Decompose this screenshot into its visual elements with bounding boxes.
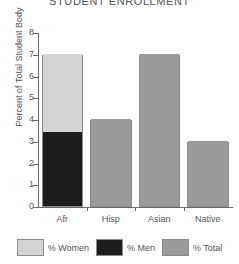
bar-native[interactable]	[187, 142, 229, 207]
bar-segment-total	[140, 54, 180, 206]
y-tick-label: 4	[29, 114, 34, 125]
legend-label: % Women	[48, 243, 89, 253]
y-tick-label: 5	[29, 92, 34, 103]
legend-swatch	[162, 239, 189, 256]
bar-segment-men	[43, 132, 83, 206]
bar-asian[interactable]	[139, 55, 181, 207]
legend-swatch	[96, 239, 123, 256]
x-axis-label-native: Native	[184, 214, 233, 224]
y-tick-label: 2	[29, 158, 34, 169]
y-tick-label: 6	[29, 71, 34, 82]
y-axis-title: Percent of Total Student Body	[14, 0, 24, 142]
y-tick-label: 7	[29, 49, 34, 60]
x-axis-label-afr: Afr	[38, 214, 87, 224]
bar-segment-total	[91, 119, 131, 206]
x-tick-mark	[87, 207, 88, 211]
y-tick-label: 3	[29, 136, 34, 147]
x-tick-mark	[135, 207, 136, 211]
student-enrollment-chart: STUDENT ENROLLMENT Percent of Total Stud…	[0, 0, 239, 264]
x-axis-label-hisp: Hisp	[87, 214, 136, 224]
bar-afr[interactable]	[42, 55, 84, 207]
legend-item[interactable]: % Women	[17, 239, 89, 256]
y-tick-label: 8	[29, 27, 34, 38]
chart-legend: % Women% Men% Total	[0, 239, 239, 256]
legend-item[interactable]: % Men	[96, 239, 155, 256]
legend-item[interactable]: % Total	[162, 239, 222, 256]
legend-label: % Men	[127, 243, 155, 253]
y-tick-label: 0	[29, 201, 34, 212]
plot-area: 012345678	[38, 33, 232, 207]
bar-segment-women	[43, 54, 83, 132]
legend-label: % Total	[193, 243, 222, 253]
x-tick-mark	[184, 207, 185, 211]
y-tick-label: 1	[29, 179, 34, 190]
bar-hisp[interactable]	[90, 120, 132, 207]
legend-swatch	[17, 239, 44, 256]
x-axis-label-asian: Asian	[135, 214, 184, 224]
bar-segment-total	[188, 141, 228, 206]
chart-title: STUDENT ENROLLMENT	[0, 0, 239, 7]
